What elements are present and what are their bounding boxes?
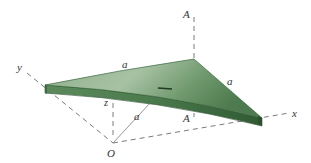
y-axis-label: y <box>16 61 22 73</box>
z-axis-label: z <box>103 97 108 108</box>
origin-label: O <box>107 147 115 159</box>
dimension-label-right-edge: a <box>227 75 233 87</box>
section-label-bottom: A <box>182 112 190 124</box>
dimension-label-radius: a <box>134 110 140 122</box>
dimension-label-left-edge: a <box>122 58 128 70</box>
plate-left-face <box>45 85 47 94</box>
x-axis-label: x <box>291 107 297 119</box>
section-label-top: A <box>182 8 190 20</box>
plate-diagram: y x z O A A a a a <box>0 0 311 163</box>
section-mark <box>158 88 172 89</box>
